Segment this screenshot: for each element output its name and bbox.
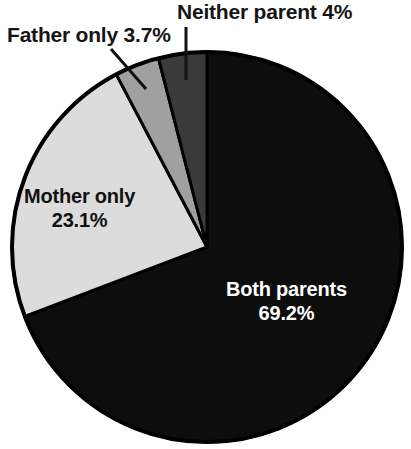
pie-chart: Father only 3.7% Neither parent 4% Both …: [0, 0, 411, 449]
pie-label-mother-only: Mother only 23.1%: [24, 185, 135, 232]
pie-label-mother-only-name: Mother only: [24, 185, 135, 209]
pie-label-both-parents-name: Both parents: [226, 278, 347, 302]
pie-label-both-parents-percent: 69.2%: [226, 302, 347, 326]
pie-label-mother-only-percent: 23.1%: [24, 209, 135, 233]
pie-label-both-parents: Both parents 69.2%: [226, 278, 347, 325]
pie-label-father-only: Father only 3.7%: [7, 24, 171, 46]
pie-label-neither-parent: Neither parent 4%: [177, 1, 352, 23]
